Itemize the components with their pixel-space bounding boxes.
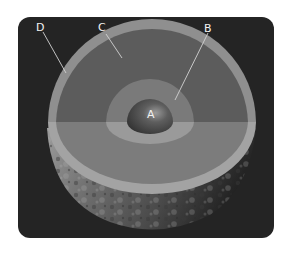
label-d: D <box>36 21 44 34</box>
planet-cutaway-diagram: D C B A <box>0 0 289 253</box>
label-a: A <box>147 108 155 121</box>
diagram-canvas: D C B A <box>0 0 289 253</box>
label-b: B <box>204 22 212 35</box>
leader-line-d <box>43 32 66 73</box>
label-c: C <box>98 21 106 34</box>
